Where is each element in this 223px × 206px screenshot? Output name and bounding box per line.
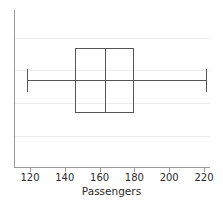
whisker-cap-high [206,69,208,92]
median-line [105,48,107,113]
gridline-4 [15,136,210,137]
tick-label-220: 220 [184,172,223,183]
y-axis-spine [14,10,15,168]
x-axis-spine [14,167,210,168]
boxplot-chart: 120 140 160 180 200 220 Passengers [0,0,223,206]
x-axis-title: Passengers [0,185,223,197]
gridline-1 [15,38,210,39]
whisker-cap-low [27,69,29,92]
